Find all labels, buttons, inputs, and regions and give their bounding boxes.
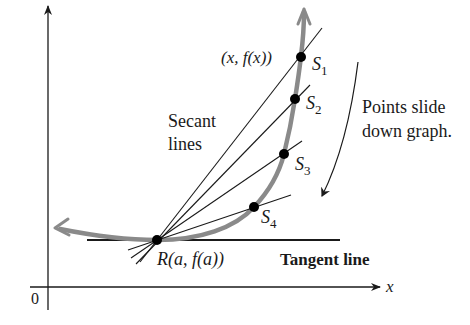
point-r xyxy=(152,235,162,245)
point-r-letter: R xyxy=(156,249,168,269)
secant-label-line2: lines xyxy=(168,134,202,154)
tangent-label: Tangent line xyxy=(280,250,370,269)
s2-label: S2 xyxy=(306,93,322,117)
s2-letter: S xyxy=(306,93,315,113)
x-axis-label: x xyxy=(385,277,394,296)
point-r-label: R(a, f(a)) xyxy=(156,249,224,270)
s1-label: S1 xyxy=(312,54,328,78)
s4-subscript: 4 xyxy=(270,216,277,231)
slide-arrow-icon xyxy=(322,62,358,196)
point-r-args: (a, f(a)) xyxy=(168,249,224,270)
s1-letter: S xyxy=(312,54,321,74)
s2-subscript: 2 xyxy=(315,102,322,117)
s4-label: S4 xyxy=(261,207,277,231)
slide-label-line2: down graph. xyxy=(362,121,452,141)
point-s1 xyxy=(296,52,306,62)
s3-letter: S xyxy=(295,154,304,174)
point-s2 xyxy=(290,94,300,104)
point-s3 xyxy=(279,149,289,159)
curve-left-arrow-icon xyxy=(55,219,69,235)
slide-label-line1: Points slide xyxy=(362,97,446,117)
origin-label: 0 xyxy=(31,290,39,307)
secant-tangent-diagram: x 0 (x, f(x)) Secant lines Points slide … xyxy=(0,0,470,325)
s3-subscript: 3 xyxy=(304,163,311,178)
point-s4 xyxy=(249,202,259,212)
secant-label-line1: Secant xyxy=(168,111,216,131)
moving-point-label: (x, f(x)) xyxy=(221,48,272,67)
s1-subscript: 1 xyxy=(321,63,328,78)
s3-label: S3 xyxy=(295,154,311,178)
s4-letter: S xyxy=(261,207,270,227)
